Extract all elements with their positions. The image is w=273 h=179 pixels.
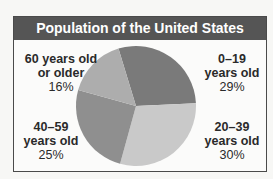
label-0-19: 0–19 years old 29%	[196, 52, 268, 94]
label-percent: 16%	[16, 80, 106, 94]
label-text: years old	[18, 134, 84, 148]
label-percent: 29%	[196, 80, 268, 94]
label-text: 20–39	[196, 120, 268, 134]
label-text: 0–19	[196, 52, 268, 66]
label-text: 40–59	[18, 120, 84, 134]
label-percent: 30%	[196, 148, 268, 162]
label-text: years old	[196, 134, 268, 148]
label-text: 60 years old	[16, 52, 106, 66]
label-40-59: 40–59 years old 25%	[18, 120, 84, 162]
label-text: years old	[196, 66, 268, 80]
label-60-plus: 60 years old or older 16%	[16, 52, 106, 94]
label-20-39: 20–39 years old 30%	[196, 120, 268, 162]
label-percent: 25%	[18, 148, 84, 162]
label-text: or older	[16, 66, 106, 80]
